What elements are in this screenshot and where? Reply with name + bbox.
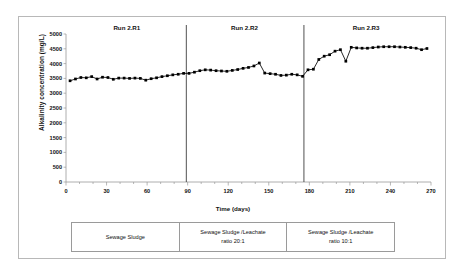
svg-text:210: 210 (345, 188, 354, 194)
svg-text:2500: 2500 (50, 105, 62, 111)
svg-text:150: 150 (264, 188, 273, 194)
svg-text:4500: 4500 (50, 46, 62, 52)
condition-line-1: Sewage Sludge /Leachate (308, 228, 373, 237)
x-axis-title: Time (days) (19, 205, 447, 212)
condition-line-1: Sewage Sludge /Leachate (200, 228, 265, 237)
svg-text:1500: 1500 (50, 135, 62, 141)
svg-text:270: 270 (426, 188, 435, 194)
svg-text:1000: 1000 (50, 149, 62, 155)
run-label-3: Run 2.R3 (326, 24, 406, 31)
condition-cell: Sewage Sludge (72, 223, 180, 251)
plot-area: Alkalinity concentration (mg/L) 05001000… (19, 17, 447, 215)
svg-text:90: 90 (185, 188, 191, 194)
svg-text:4000: 4000 (50, 61, 62, 67)
svg-text:240: 240 (386, 188, 395, 194)
condition-cell: Sewage Sludge /Leachate ratio 20:1 (180, 223, 288, 251)
condition-cell: Sewage Sludge /Leachate ratio 10:1 (287, 223, 394, 251)
chart-svg: 0500100015002000250030003500400045005000… (19, 17, 447, 215)
svg-text:2000: 2000 (50, 120, 62, 126)
condition-line-2: ratio 20:1 (200, 237, 265, 246)
svg-text:120: 120 (224, 188, 233, 194)
svg-text:0: 0 (59, 179, 62, 185)
svg-text:0: 0 (64, 188, 67, 194)
run-label-2: Run 2.R2 (204, 24, 284, 31)
figure-frame: Alkalinity concentration (mg/L) 05001000… (18, 16, 446, 259)
run-label-1: Run 2.R1 (87, 24, 167, 31)
svg-text:500: 500 (53, 164, 62, 170)
condition-line-1: Sewage Sludge (106, 233, 145, 242)
conditions-table: Sewage Sludge Sewage Sludge /Leachate ra… (71, 222, 395, 252)
svg-text:180: 180 (305, 188, 314, 194)
svg-text:3500: 3500 (50, 75, 62, 81)
svg-text:60: 60 (144, 188, 150, 194)
condition-line-2: ratio 10:1 (308, 237, 373, 246)
svg-text:5000: 5000 (50, 31, 62, 37)
svg-text:3000: 3000 (50, 90, 62, 96)
svg-text:30: 30 (103, 188, 109, 194)
